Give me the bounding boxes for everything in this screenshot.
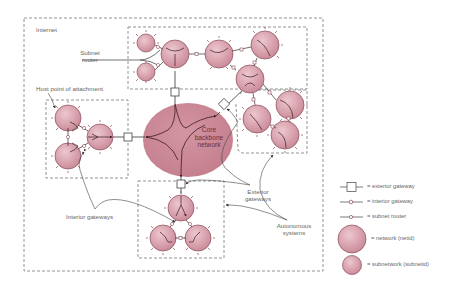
legend-label-exterior-gateway: = exterior gateway bbox=[367, 183, 415, 189]
label-autonomous-systems-line2: systems bbox=[272, 229, 316, 236]
label-internet: Internet bbox=[36, 26, 57, 33]
label-host-point-of-attachment: Host point of attachment bbox=[36, 85, 103, 92]
label-core-line1: Core bbox=[192, 126, 226, 134]
exterior-gateway-left bbox=[124, 133, 132, 141]
label-exterior-gateways-line1: Exterior bbox=[240, 188, 276, 195]
legend-label-subnetwork: = subnetwork (subnetid) bbox=[367, 261, 429, 267]
internet-architecture-diagram bbox=[0, 0, 455, 287]
label-exterior-gateways: Exterior gateways bbox=[240, 188, 276, 202]
legend-label-subnet-router: = subnet router bbox=[367, 213, 406, 219]
exterior-gateway-top bbox=[171, 88, 179, 96]
label-core-line2: backbone bbox=[192, 134, 226, 142]
label-autonomous-systems: Autonomous systems bbox=[272, 222, 316, 236]
legend-interior-gateway-symbol bbox=[340, 200, 363, 204]
exterior-gateway-bottom bbox=[177, 180, 185, 188]
label-subnet-router-line2: router bbox=[72, 56, 108, 63]
legend bbox=[338, 183, 366, 275]
legend-exterior-gateway-symbol bbox=[340, 183, 363, 192]
label-interior-gateways: Interior gateways bbox=[66, 213, 113, 220]
legend-label-interior-gateway: = interior gateway bbox=[367, 198, 413, 204]
label-core-backbone-network: Core backbone network bbox=[192, 126, 226, 149]
label-core-line3: network bbox=[192, 141, 226, 149]
legend-subnet-router-symbol bbox=[340, 215, 363, 218]
legend-network-symbol bbox=[338, 225, 366, 253]
label-subnet-router: Subnet router bbox=[72, 49, 108, 63]
label-subnet-router-line1: Subnet bbox=[72, 49, 108, 56]
legend-label-network: = network (netid) bbox=[371, 235, 414, 241]
legend-subnetwork-symbol bbox=[343, 256, 362, 275]
label-autonomous-systems-line1: Autonomous bbox=[272, 222, 316, 229]
exterior-gateway-right bbox=[218, 98, 229, 109]
label-exterior-gateways-line2: gateways bbox=[240, 195, 276, 202]
bottom-as-networks bbox=[146, 191, 215, 255]
